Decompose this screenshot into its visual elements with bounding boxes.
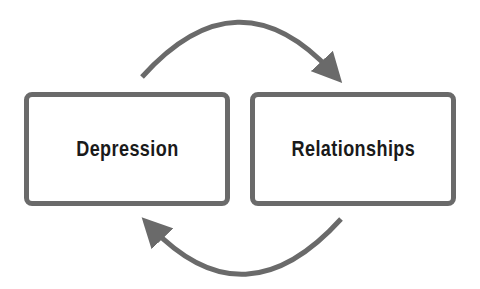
node-label: Depression — [76, 136, 178, 162]
arrow-bottom-relationships-to-depression — [152, 219, 341, 274]
node-depression: Depression — [24, 92, 230, 206]
arrow-top-depression-to-relationships — [142, 22, 332, 77]
node-relationships: Relationships — [250, 92, 456, 206]
node-label: Relationships — [291, 136, 415, 162]
